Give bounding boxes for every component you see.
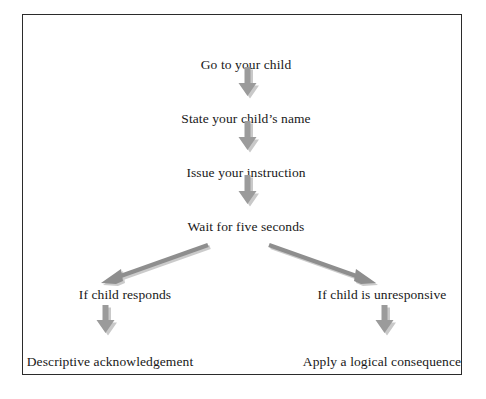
flowchart-border-frame: Go to your child State your child’s name…: [22, 14, 462, 375]
flow-node-descriptive-acknowledgement: Descriptive acknowledgement: [27, 354, 194, 370]
flowchart-canvas: Go to your child State your child’s name…: [0, 0, 486, 399]
arrow-down-step2-to-step3: [229, 117, 265, 157]
arrow-down-branchleft-to-outcomeleft: [87, 301, 123, 341]
arrow-down-step1-to-step2: [229, 63, 265, 103]
arrow-down-branchright-to-outcomeright: [366, 301, 402, 341]
flow-node-wait-for-five-seconds: Wait for five seconds: [188, 219, 305, 235]
flow-node-apply-a-logical-consequence: Apply a logical consequence: [303, 354, 461, 370]
arrow-down-step3-to-step4: [229, 171, 265, 211]
